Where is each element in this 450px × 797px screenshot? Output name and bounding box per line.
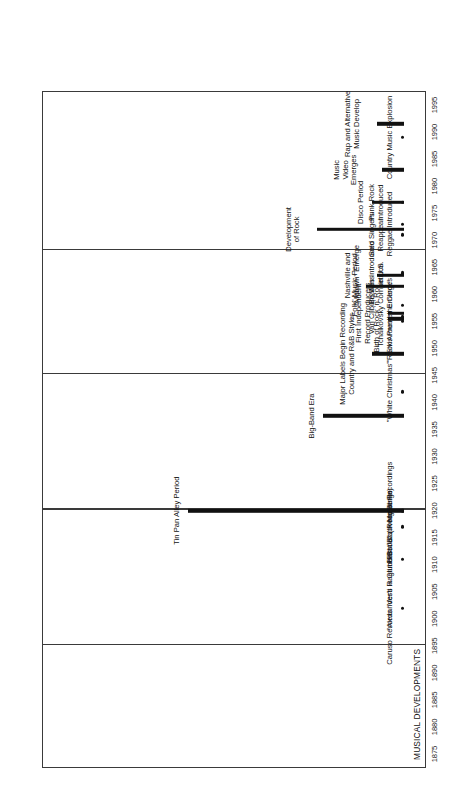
axis-tick-label: 1945 <box>430 367 439 384</box>
rotated-figure: MUSICAL DEVELOPMENTS Caruso Records "Ves… <box>0 0 450 797</box>
axis-tick-label: 1940 <box>430 394 439 411</box>
event-period-bar <box>188 509 404 513</box>
event-label: Big-Band Era <box>308 326 317 506</box>
axis-tick-label: 1950 <box>430 340 439 357</box>
event-label: Country Music Explosion <box>386 47 395 227</box>
axis-tick-label: 1875 <box>430 746 439 763</box>
event-label: Tin Pan Alley Period <box>173 421 182 601</box>
axis-tick-label: 1985 <box>430 151 439 168</box>
axis-tick-label: 1980 <box>430 178 439 195</box>
axis-tick-label: 1955 <box>430 313 439 330</box>
axis-tick-label: 1890 <box>430 665 439 682</box>
axis-tick-label: 1900 <box>430 611 439 628</box>
axis-tick-label: 1910 <box>430 556 439 573</box>
axis-tick-label: 1915 <box>430 529 439 546</box>
event-label: Rap and Alternative Music Develop <box>345 34 363 214</box>
axis-tick-label: 1935 <box>430 421 439 438</box>
axis-tick-label: 1990 <box>430 124 439 141</box>
event-label: Punk Rock Introduced <box>368 112 386 292</box>
axis-tick-label: 1960 <box>430 286 439 303</box>
axis-tick-label: 1995 <box>430 97 439 114</box>
axis-tick-label: 1895 <box>430 638 439 655</box>
axis-tick-label: 1925 <box>430 475 439 492</box>
axis-tick-label: 1965 <box>430 259 439 276</box>
axis-tick-label: 1905 <box>430 584 439 601</box>
axis-tick-label: 1975 <box>430 205 439 222</box>
axis-tick-label: 1885 <box>430 692 439 709</box>
event-label: Development of Rock <box>285 139 303 319</box>
axis-tick-label: 1920 <box>430 502 439 519</box>
page-title: MUSICAL DEVELOPMENTS <box>412 649 422 760</box>
axis-tick-label: 1970 <box>430 232 439 249</box>
event-period-bar <box>377 122 404 126</box>
year-axis: 1875188018851890189519001905191019151920… <box>426 91 448 768</box>
axis-tick-label: 1930 <box>430 448 439 465</box>
section-divider <box>42 644 426 645</box>
timeline-page: MUSICAL DEVELOPMENTS Caruso Records "Ves… <box>0 0 450 797</box>
axis-tick-label: 1880 <box>430 719 439 736</box>
